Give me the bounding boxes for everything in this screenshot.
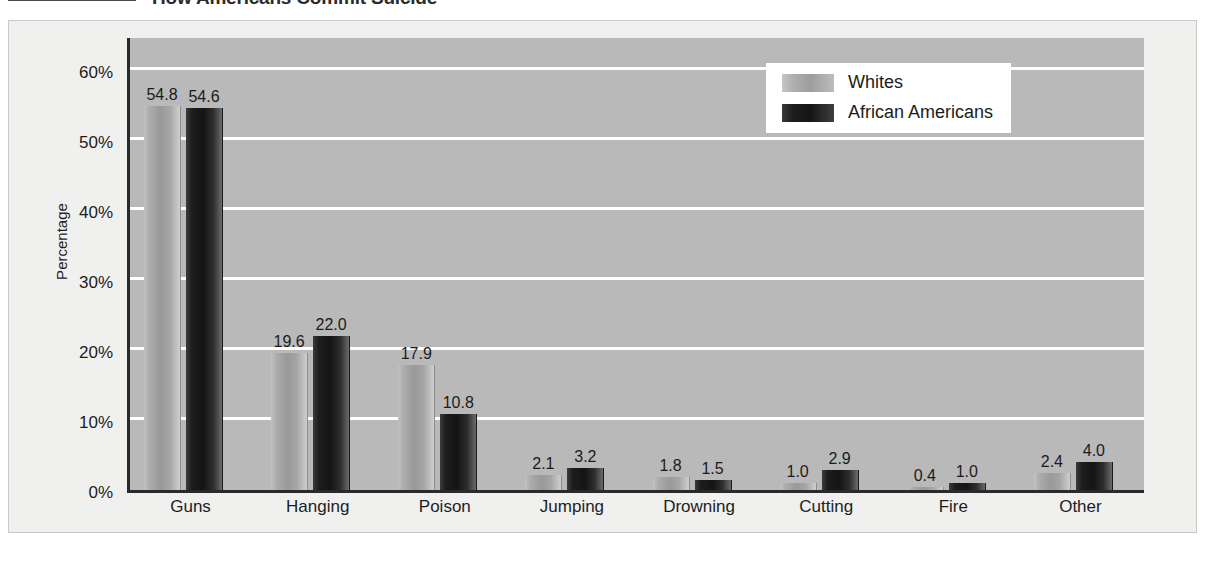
legend-label: Whites: [848, 72, 903, 93]
bar-value-label: 10.8: [443, 394, 474, 412]
bar-group: 1.81.5: [639, 38, 766, 490]
bar: 1.8: [653, 477, 690, 490]
x-axis-tick-labels: GunsHangingPoisonJumpingDrowningCuttingF…: [127, 497, 1144, 531]
bar-value-label: 54.8: [146, 86, 177, 104]
x-axis-tick-label: Poison: [419, 497, 471, 517]
bar-value-label: 1.0: [787, 463, 809, 481]
bar-group: 19.622.0: [257, 38, 384, 490]
title-rule: [8, 0, 136, 1]
bar: 1.0: [949, 483, 986, 490]
bar-value-label: 0.4: [914, 467, 936, 485]
legend-entry: African Americans: [782, 102, 993, 123]
y-axis-tick-label: 50%: [57, 133, 113, 153]
legend-swatch-icon: [782, 104, 834, 122]
bar-value-label: 17.9: [401, 345, 432, 363]
x-axis-tick-label: Other: [1059, 497, 1102, 517]
legend-entry: Whites: [782, 72, 993, 93]
bar-value-label: 1.8: [659, 457, 681, 475]
bar: 22.0: [313, 336, 350, 490]
bar: 1.5: [695, 480, 732, 491]
bar: 2.4: [1034, 473, 1071, 490]
y-axis-tick-labels: 0%10%20%30%40%50%60%: [53, 21, 113, 534]
chart-legend: WhitesAfrican Americans: [766, 63, 1011, 133]
chart-title-strip: How Americans Commit Suicide: [0, 0, 1205, 9]
bar: 19.6: [271, 353, 308, 490]
bar-value-label: 22.0: [316, 316, 347, 334]
bar-group: 2.44.0: [1020, 38, 1147, 490]
y-axis-tick-label: 0%: [57, 483, 113, 503]
x-axis-tick-label: Hanging: [286, 497, 349, 517]
legend-swatch-icon: [782, 74, 834, 92]
x-axis-tick-label: Drowning: [663, 497, 735, 517]
x-axis-tick-label: Fire: [939, 497, 968, 517]
x-axis-tick-label: Cutting: [799, 497, 853, 517]
bar: 54.6: [186, 108, 223, 490]
bar-value-label: 4.0: [1083, 442, 1105, 460]
bar-value-label: 1.0: [956, 463, 978, 481]
bar: 2.9: [822, 470, 859, 490]
bar-group: 54.854.6: [130, 38, 257, 490]
y-axis-tick-label: 40%: [57, 203, 113, 223]
y-axis-tick-label: 20%: [57, 343, 113, 363]
bar: 1.0: [780, 483, 817, 490]
y-axis-tick-label: 30%: [57, 273, 113, 293]
bar-value-label: 2.9: [829, 450, 851, 468]
legend-label: African Americans: [848, 102, 993, 123]
y-axis-tick-label: 10%: [57, 413, 113, 433]
bar: 3.2: [567, 468, 604, 490]
bar: 10.8: [440, 414, 477, 490]
bar-value-label: 1.5: [701, 460, 723, 478]
bar: 2.1: [525, 475, 562, 490]
x-axis-tick-label: Guns: [170, 497, 211, 517]
bar-group: 2.13.2: [511, 38, 638, 490]
bar-value-label: 2.4: [1041, 453, 1063, 471]
chart-figure: Percentage 0%10%20%30%40%50%60% 54.854.6…: [8, 20, 1197, 533]
bar: 0.4: [907, 487, 944, 490]
bar-group: 17.910.8: [384, 38, 511, 490]
bar: 54.8: [144, 106, 181, 490]
bar-value-label: 2.1: [532, 455, 554, 473]
bar: 17.9: [398, 365, 435, 490]
bar-value-label: 54.6: [188, 88, 219, 106]
x-axis-tick-label: Jumping: [540, 497, 604, 517]
y-axis-tick-label: 60%: [57, 63, 113, 83]
bar-value-label: 3.2: [574, 448, 596, 466]
page-title: How Americans Commit Suicide: [152, 0, 437, 9]
bar-value-label: 19.6: [274, 333, 305, 351]
bar: 4.0: [1076, 462, 1113, 490]
